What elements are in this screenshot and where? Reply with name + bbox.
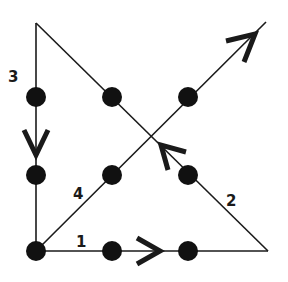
dot: [102, 241, 122, 261]
step-label-2: 2: [226, 192, 236, 210]
dot: [26, 241, 46, 261]
dot: [26, 87, 46, 107]
step-label-4: 4: [73, 185, 83, 203]
dot: [178, 87, 198, 107]
nine-dots-diagram: 1 2 3 4: [0, 0, 288, 282]
step-label-1: 1: [76, 233, 86, 251]
dot: [178, 165, 198, 185]
dot: [102, 165, 122, 185]
dot: [178, 241, 198, 261]
step-label-3: 3: [8, 68, 18, 86]
dot: [26, 165, 46, 185]
dot: [102, 87, 122, 107]
